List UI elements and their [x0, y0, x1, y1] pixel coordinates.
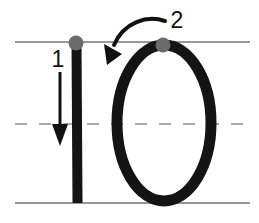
stroke-1-direction-arrow [52, 72, 68, 146]
stroke-1-start-dot [69, 36, 84, 51]
stroke-1-label: 1 [52, 46, 65, 72]
stroke-1-arrowhead [52, 124, 68, 146]
stroke-2-start-dot [156, 38, 171, 53]
figure-canvas: 1 2 [0, 0, 259, 223]
vertical-stroke [77, 44, 78, 203]
stroke-2-label: 2 [171, 7, 184, 33]
stroke-order-diagram: 1 2 [0, 0, 259, 223]
stroke-2-arrowhead [104, 44, 122, 65]
